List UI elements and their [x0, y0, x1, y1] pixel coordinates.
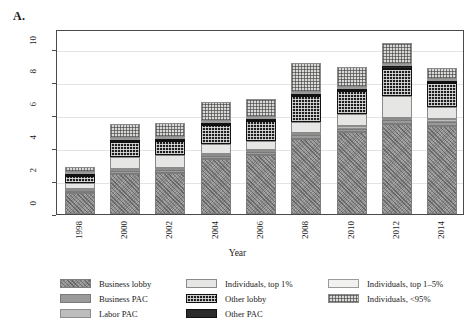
bar-segment	[427, 68, 457, 79]
bar-2010[interactable]	[337, 67, 367, 214]
legend-label: Other lobby	[225, 294, 266, 304]
x-axis-title: Year	[0, 248, 475, 258]
bar-segment	[201, 102, 231, 121]
y-tick-label: 6	[28, 102, 38, 128]
bar-segment	[155, 155, 185, 168]
bar-segment	[291, 122, 321, 134]
bar-2012[interactable]	[382, 43, 412, 214]
legend-swatch-icon	[186, 309, 217, 318]
y-tick-mark	[52, 182, 56, 183]
y-tick-label: 0	[28, 201, 38, 227]
legend-label: Labor PAC	[99, 309, 138, 319]
x-tick-label: 2004	[210, 221, 220, 239]
legend-swatch-icon	[186, 294, 217, 303]
legend-swatch-icon	[186, 279, 217, 288]
bar-segment	[337, 91, 367, 114]
panel-label: A.	[13, 9, 25, 24]
x-tick-label: 2012	[391, 221, 401, 239]
legend-item[interactable]: Business lobby	[60, 276, 151, 291]
x-tick-label: 2014	[436, 221, 446, 239]
bar-segment	[246, 155, 276, 214]
bar-segment	[201, 159, 231, 214]
legend-item[interactable]: Individuals, <95%	[328, 291, 443, 306]
legend-item[interactable]: Other lobby	[186, 291, 293, 306]
bar-segment	[337, 132, 367, 214]
legend-swatch-icon	[60, 279, 91, 288]
bar-segment	[427, 83, 457, 107]
legend-item[interactable]: Individuals, top 1%	[186, 276, 293, 291]
legend-column: Individuals, top 1–5%Individuals, <95%	[328, 276, 443, 306]
bar-segment	[110, 124, 140, 138]
bar-segment	[246, 141, 276, 150]
bar-segment	[337, 67, 367, 87]
bar-segment	[110, 142, 140, 157]
y-tick-mark	[52, 149, 56, 150]
bar-segment	[201, 144, 231, 154]
bar-2014[interactable]	[427, 68, 457, 214]
bar-segment	[155, 123, 185, 137]
legend-label: Individuals, top 1–5%	[367, 279, 443, 289]
legend-column: Individuals, top 1%Other lobbyOther PAC	[186, 276, 293, 321]
legend-swatch-icon	[328, 294, 359, 303]
legend-label: Business lobby	[99, 279, 151, 289]
y-tick-label: 8	[28, 69, 38, 95]
y-tick-mark	[52, 116, 56, 117]
x-tick-label: 2006	[255, 221, 265, 239]
x-tick-label: 2008	[300, 221, 310, 239]
bar-segment	[291, 139, 321, 214]
legend-item[interactable]: Labor PAC	[60, 306, 151, 321]
legend-swatch-icon	[60, 294, 91, 303]
legend-label: Business PAC	[99, 294, 148, 304]
legend-swatch-icon	[60, 309, 91, 318]
legend-item[interactable]: Individuals, top 1–5%	[328, 276, 443, 291]
bar-segment	[291, 63, 321, 92]
x-tick-label: 1998	[74, 221, 84, 239]
bar-2008[interactable]	[291, 63, 321, 214]
legend-item[interactable]: Business PAC	[60, 291, 151, 306]
bar-segment	[65, 193, 95, 214]
bar-2000[interactable]	[110, 124, 140, 214]
legend-label: Other PAC	[225, 309, 263, 319]
bar-segment	[427, 126, 457, 214]
bar-2006[interactable]	[246, 99, 276, 214]
bar-1998[interactable]	[65, 167, 95, 214]
bar-segment	[155, 173, 185, 214]
y-tick-label: 4	[28, 135, 38, 161]
legend-label: Individuals, <95%	[367, 294, 431, 304]
x-tick-label: 2010	[346, 221, 356, 239]
bar-2004[interactable]	[201, 102, 231, 214]
legend-swatch-icon	[328, 279, 359, 288]
bar-segment	[110, 174, 140, 214]
bar-segment	[110, 157, 140, 169]
legend-item[interactable]: Other PAC	[186, 306, 293, 321]
y-tick-mark	[52, 215, 56, 216]
bar-segment	[382, 43, 412, 64]
legend-label: Individuals, top 1%	[225, 279, 293, 289]
bar-segment	[155, 141, 185, 156]
chart-plot-area	[56, 30, 464, 215]
bar-segment	[382, 124, 412, 214]
bar-2002[interactable]	[155, 123, 185, 214]
y-tick-label: 10	[28, 36, 38, 62]
y-tick-label: 2	[28, 168, 38, 194]
x-tick-label: 2002	[164, 221, 174, 239]
bar-segment	[291, 96, 321, 122]
bar-segment	[382, 96, 412, 117]
bar-segment	[246, 99, 276, 117]
bar-segment	[337, 114, 367, 126]
y-tick-mark	[52, 50, 56, 51]
legend-column: Business lobbyBusiness PACLabor PAC	[60, 276, 151, 321]
y-tick-mark	[52, 83, 56, 84]
bar-segment	[201, 125, 231, 144]
bar-segment	[382, 69, 412, 96]
bar-segment	[246, 121, 276, 141]
bar-segment	[65, 176, 95, 183]
x-tick-label: 2000	[119, 221, 129, 239]
bar-segment	[427, 107, 457, 119]
